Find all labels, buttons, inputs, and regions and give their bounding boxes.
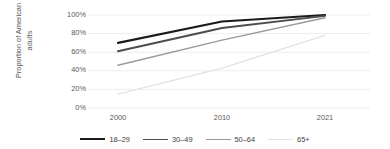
legend-item-18-29[interactable]: 18–29 xyxy=(80,135,130,144)
legend-swatch-30-49 xyxy=(143,139,168,140)
y-axis-title: Proportion of American adults xyxy=(14,0,35,96)
legend-swatch-65-plus xyxy=(268,139,293,140)
legend-label-30-49: 30–49 xyxy=(172,135,193,144)
legend-item-65-plus[interactable]: 65+ xyxy=(268,135,310,144)
y-axis-tick-20: 20% xyxy=(42,85,86,93)
series-line-50-64 xyxy=(118,18,325,65)
series-lines xyxy=(118,15,325,94)
y-axis-tick-80: 80% xyxy=(42,29,86,37)
legend-swatch-50-64 xyxy=(206,139,231,140)
y-axis-tick-100: 100% xyxy=(42,11,86,19)
legend-label-65-plus: 65+ xyxy=(297,135,310,144)
y-axis-tick-0: 0% xyxy=(42,104,86,112)
legend-item-30-49[interactable]: 30–49 xyxy=(143,135,193,144)
x-axis-tick-2010: 2010 xyxy=(199,113,245,122)
x-axis-tick-labels: 2000 2010 2021 xyxy=(0,113,390,125)
plot-svg xyxy=(88,8,370,112)
legend-label-50-64: 50–64 xyxy=(235,135,256,144)
y-axis-tick-60: 60% xyxy=(42,48,86,56)
plot-area xyxy=(88,8,370,112)
y-axis-tick-40: 40% xyxy=(42,66,86,74)
x-axis-tick-2000: 2000 xyxy=(95,113,141,122)
y-axis-tick-labels: 100% 80% 60% 40% 20% 0% xyxy=(38,0,86,120)
legend-label-18-29: 18–29 xyxy=(109,135,130,144)
x-axis-tick-2021: 2021 xyxy=(302,113,348,122)
legend-swatch-18-29 xyxy=(80,138,105,140)
y-axis-title-line-1: Proportion of American xyxy=(14,0,25,96)
y-axis-title-line-2: adults xyxy=(24,0,35,96)
legend-item-50-64[interactable]: 50–64 xyxy=(206,135,256,144)
line-chart: Proportion of American adults 100% 80% 6… xyxy=(0,0,390,149)
chart-legend: 18–29 30–49 50–64 65+ xyxy=(0,131,390,147)
